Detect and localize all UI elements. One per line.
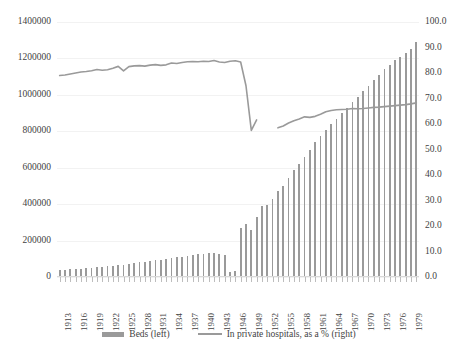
x-axis-tick bbox=[358, 277, 359, 282]
x-axis-tick bbox=[193, 277, 194, 282]
x-axis-tick bbox=[315, 277, 316, 282]
x-axis-tick bbox=[246, 277, 247, 282]
x-axis-tick bbox=[166, 277, 167, 282]
x-axis-tick bbox=[145, 277, 146, 282]
bar-swatch-icon bbox=[102, 332, 124, 337]
line-swatch-icon bbox=[198, 333, 222, 335]
x-axis-tick bbox=[214, 277, 215, 282]
x-axis-tick bbox=[347, 277, 348, 282]
x-axis-tick bbox=[150, 277, 151, 282]
x-axis-tick bbox=[198, 277, 199, 282]
x-axis-tick bbox=[299, 277, 300, 282]
x-axis-tick bbox=[161, 277, 162, 282]
right-axis-tick-label: 90.0 bbox=[425, 43, 442, 53]
x-axis-tick bbox=[76, 277, 77, 282]
x-axis-tick bbox=[140, 277, 141, 282]
x-axis-tick bbox=[225, 277, 226, 282]
left-axis-tick-label: 1200000 bbox=[18, 53, 51, 63]
x-axis-tick bbox=[203, 277, 204, 282]
x-axis-tick bbox=[65, 277, 66, 282]
right-axis-tick-label: 100.0 bbox=[425, 17, 446, 27]
right-axis-tick-label: 20.0 bbox=[425, 221, 442, 231]
x-axis-tick bbox=[60, 277, 61, 282]
x-axis-tick bbox=[251, 277, 252, 282]
x-axis-tick bbox=[363, 277, 364, 282]
x-axis-tick bbox=[235, 277, 236, 282]
x-axis-tick bbox=[70, 277, 71, 282]
x-axis-tick bbox=[182, 277, 183, 282]
x-axis-tick bbox=[406, 277, 407, 282]
x-axis-tick bbox=[92, 277, 93, 282]
right-axis-tick-label: 60.0 bbox=[425, 119, 442, 129]
x-axis-tick bbox=[97, 277, 98, 282]
right-axis-tick-label: 40.0 bbox=[425, 170, 442, 180]
left-axis-tick-label: 600000 bbox=[23, 163, 52, 173]
right-axis-tick-label: 10.0 bbox=[425, 247, 442, 257]
x-axis-tick bbox=[395, 277, 396, 282]
x-axis-tick bbox=[129, 277, 130, 282]
x-axis-tick bbox=[171, 277, 172, 282]
x-axis-tick bbox=[283, 277, 284, 282]
right-axis-tick-label: 80.0 bbox=[425, 68, 442, 78]
x-axis-tick bbox=[289, 277, 290, 282]
chart-legend: Beds (left) In private hospitals, as a %… bbox=[0, 329, 458, 339]
x-axis-tick bbox=[108, 277, 109, 282]
left-axis-tick-label: 400000 bbox=[23, 199, 52, 209]
x-axis-tick bbox=[257, 277, 258, 282]
x-axis-tick bbox=[384, 277, 385, 282]
plot-area bbox=[57, 22, 419, 277]
x-axis-tick bbox=[187, 277, 188, 282]
legend-label-beds: Beds (left) bbox=[129, 329, 169, 339]
x-axis-tick bbox=[113, 277, 114, 282]
left-axis-tick-label: 800000 bbox=[23, 126, 52, 136]
right-axis-tick-label: 30.0 bbox=[425, 196, 442, 206]
right-axis-tick-label: 70.0 bbox=[425, 94, 442, 104]
x-axis-tick bbox=[177, 277, 178, 282]
right-axis-tick-label: 0.0 bbox=[425, 272, 437, 282]
legend-label-private-pct: In private hospitals, as a % (right) bbox=[227, 329, 356, 339]
x-axis-tick bbox=[310, 277, 311, 282]
x-axis-tick bbox=[400, 277, 401, 282]
x-axis-tick bbox=[374, 277, 375, 282]
x-axis-tick bbox=[278, 277, 279, 282]
left-axis-tick-label: 1000000 bbox=[18, 90, 51, 100]
x-axis-tick bbox=[326, 277, 327, 282]
legend-item-beds[interactable]: Beds (left) bbox=[102, 329, 169, 339]
x-axis-labels: 1913191619191922192519281931193419371940… bbox=[57, 283, 419, 319]
x-axis-tick bbox=[294, 277, 295, 282]
x-axis-tick bbox=[321, 277, 322, 282]
x-axis-tick bbox=[416, 277, 417, 282]
x-axis-tick bbox=[379, 277, 380, 282]
x-axis-tick bbox=[102, 277, 103, 282]
line-path bbox=[60, 61, 257, 131]
x-axis-tick bbox=[219, 277, 220, 282]
x-axis-tick bbox=[81, 277, 82, 282]
chart-container: 0200000400000600000800000100000012000001… bbox=[0, 0, 458, 345]
line-path bbox=[278, 103, 416, 128]
x-axis-tick bbox=[155, 277, 156, 282]
left-axis-tick-label: 200000 bbox=[23, 236, 52, 246]
x-axis-tick bbox=[267, 277, 268, 282]
left-axis-tick-label: 0 bbox=[46, 272, 51, 282]
x-axis-tick bbox=[352, 277, 353, 282]
x-axis-tick bbox=[209, 277, 210, 282]
x-axis-tick bbox=[86, 277, 87, 282]
x-axis-tick bbox=[390, 277, 391, 282]
x-axis-tick bbox=[118, 277, 119, 282]
x-axis-tick bbox=[342, 277, 343, 282]
x-axis-tick bbox=[305, 277, 306, 282]
x-axis-tick bbox=[262, 277, 263, 282]
x-axis-tick bbox=[230, 277, 231, 282]
x-axis-tick bbox=[336, 277, 337, 282]
line-series bbox=[57, 22, 419, 277]
x-axis-tick bbox=[331, 277, 332, 282]
x-axis-tick bbox=[368, 277, 369, 282]
right-axis-tick-label: 50.0 bbox=[425, 145, 442, 155]
x-axis-tick bbox=[273, 277, 274, 282]
x-axis-tick bbox=[241, 277, 242, 282]
legend-item-private-pct[interactable]: In private hospitals, as a % (right) bbox=[198, 329, 356, 339]
left-axis-tick-label: 1400000 bbox=[18, 17, 51, 27]
x-axis-tick bbox=[124, 277, 125, 282]
x-axis-tick bbox=[411, 277, 412, 282]
x-axis-tick bbox=[134, 277, 135, 282]
